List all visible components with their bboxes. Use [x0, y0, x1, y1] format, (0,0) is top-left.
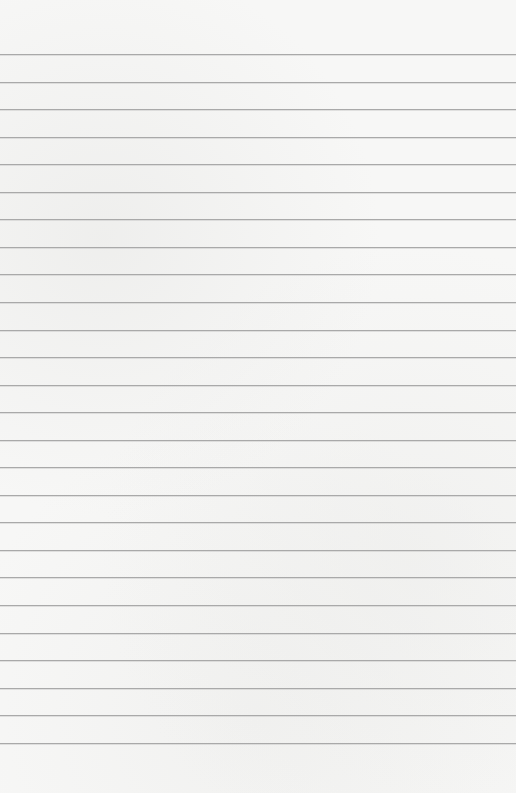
ruled-line: [0, 440, 516, 441]
ruled-line: [0, 660, 516, 661]
ruled-line: [0, 137, 516, 138]
ruled-line: [0, 274, 516, 275]
ruled-line: [0, 688, 516, 689]
ruled-line: [0, 164, 516, 165]
ruled-line: [0, 550, 516, 551]
ruled-line: [0, 302, 516, 303]
ruled-line: [0, 495, 516, 496]
ruled-line: [0, 82, 516, 83]
ruled-line: [0, 109, 516, 110]
ruled-line: [0, 577, 516, 578]
lined-paper-sheet: [0, 0, 516, 793]
ruled-line: [0, 330, 516, 331]
ruled-line: [0, 522, 516, 523]
ruled-line: [0, 743, 516, 744]
ruled-line: [0, 54, 516, 55]
ruled-line: [0, 385, 516, 386]
ruled-line: [0, 633, 516, 634]
ruled-line: [0, 605, 516, 606]
ruled-line: [0, 412, 516, 413]
ruled-line: [0, 192, 516, 193]
ruled-line: [0, 247, 516, 248]
ruled-line: [0, 219, 516, 220]
ruled-line: [0, 357, 516, 358]
ruled-line: [0, 467, 516, 468]
ruled-line: [0, 715, 516, 716]
